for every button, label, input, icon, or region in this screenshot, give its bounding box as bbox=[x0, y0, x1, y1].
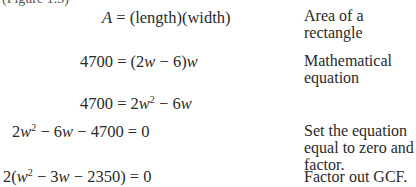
equation-rhs: (2w − 6)w bbox=[131, 52, 198, 71]
equals-sign: = bbox=[117, 94, 126, 113]
equation-set-to-zero: 2w2 − 6w − 4700 = 0 bbox=[12, 123, 149, 141]
equation-lhs: A bbox=[102, 8, 112, 27]
equals-sign: = bbox=[116, 8, 125, 27]
cropped-header-fragment: (Figure 1.5) bbox=[2, 0, 69, 7]
equation-area-formula: A = (length)(width) bbox=[102, 9, 230, 27]
equation-rhs: 2w2 − 6w bbox=[131, 94, 192, 113]
equation-lhs: 4700 bbox=[80, 94, 113, 113]
equation-lhs: 2(w2 − 3w − 2350) bbox=[3, 167, 126, 186]
note-mathematical-equation: Mathematical equation bbox=[304, 52, 416, 86]
equation-expanded: 4700 = 2w2 − 6w bbox=[80, 95, 192, 113]
equals-sign: = bbox=[128, 122, 137, 141]
equation-rhs: 0 bbox=[143, 167, 151, 186]
note-area-of-rectangle: Area of a rectangle bbox=[304, 7, 416, 41]
equation-substitution: 4700 = (2w − 6)w bbox=[80, 53, 198, 71]
equals-sign: = bbox=[117, 52, 126, 71]
note-factor-out-gcf: Factor out GCF. bbox=[304, 168, 416, 185]
equals-sign: = bbox=[130, 167, 139, 186]
note-set-equal-zero: Set the equation equal to zero and facto… bbox=[304, 122, 416, 173]
equation-rhs: (length)(width) bbox=[130, 8, 231, 27]
equation-lhs: 4700 bbox=[80, 52, 113, 71]
equation-lhs: 2w2 − 6w − 4700 bbox=[12, 122, 124, 141]
equation-factor-gcf: 2(w2 − 3w − 2350) = 0 bbox=[3, 168, 151, 186]
equation-rhs: 0 bbox=[141, 122, 149, 141]
